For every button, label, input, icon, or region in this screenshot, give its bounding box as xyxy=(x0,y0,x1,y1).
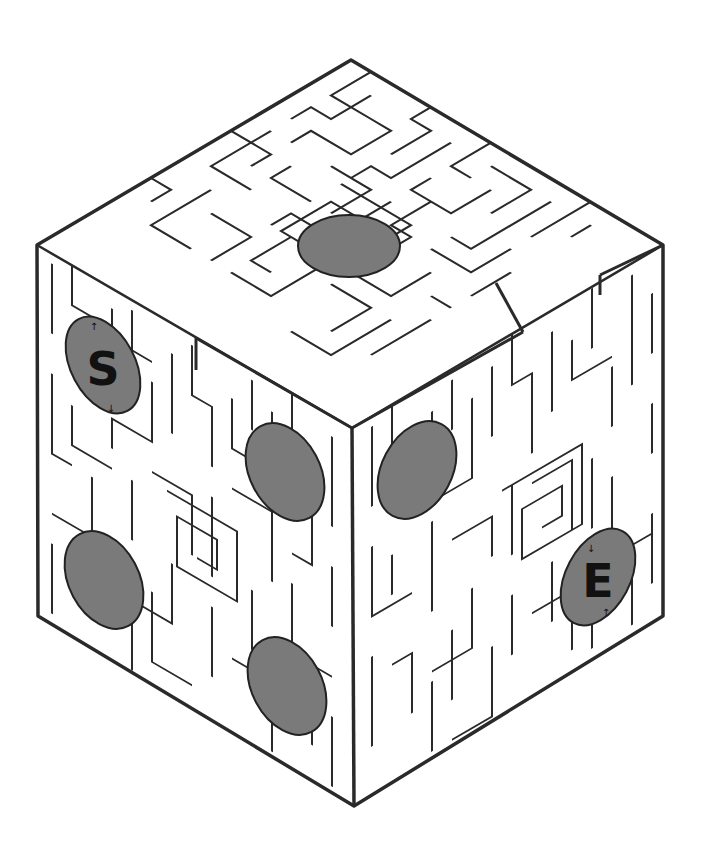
pip-right-upper xyxy=(362,408,473,533)
start-arrow-down-icon: ↓ xyxy=(107,403,115,414)
pip-top xyxy=(298,215,400,277)
end-marker[interactable]: E ↓ ↑ xyxy=(545,516,650,638)
end-arrow-up-icon: ↑ xyxy=(602,607,610,618)
end-arrow-down-icon: ↓ xyxy=(587,543,595,554)
cube-outline xyxy=(37,60,663,806)
cube-maze-svg: S ↑ ↓ E ↓ ↑ xyxy=(0,0,704,855)
start-marker[interactable]: S ↑ ↓ xyxy=(50,304,155,426)
pip-left-lower-right xyxy=(232,624,343,749)
pip-left-upper-right xyxy=(230,410,341,535)
start-label: S xyxy=(86,342,119,396)
start-arrow-up-icon: ↑ xyxy=(90,321,98,332)
maze-canvas: S ↑ ↓ E ↓ ↑ xyxy=(0,0,704,855)
pip-left-lower-left xyxy=(49,518,160,643)
end-label: E xyxy=(582,554,613,608)
